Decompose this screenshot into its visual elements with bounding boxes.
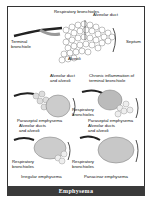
paraseptal-drawing <box>14 91 75 117</box>
label-terminal-bronchiole: Terminal bronchiole <box>11 40 41 49</box>
label-septum: Septum <box>126 40 141 45</box>
label-alveolar-duct-alveoli: Alveolar duct and alveoli <box>50 74 80 83</box>
label-irregular-emphysema: Irregular emphysema <box>21 175 62 180</box>
figure-caption: Emphysema <box>7 186 145 196</box>
label-respiratory-bronchioles-right: Respiratory bronchioles <box>72 160 102 169</box>
label-panacinar-emphysema: Panacinar emphysema <box>84 175 128 180</box>
label-respiratory-bronchioles-mid: Respiratory bronchioles <box>72 108 100 117</box>
label-alveolar-ducts-alveoli-right: Alveolar ducts and alveoli <box>88 124 118 133</box>
label-alveolar-duct: Alveolar duct <box>93 13 118 18</box>
label-alveolar-ducts-alveoli-left: Alveolar ducts and alveoli <box>19 124 49 133</box>
label-chronic-inflammation: Chronic inflammation of terminal bronchi… <box>89 74 145 83</box>
diagram-illustration <box>0 0 154 202</box>
label-alveoli: Alveoli <box>68 57 81 62</box>
label-respiratory-bronchioles-left: Respiratory bronchioles <box>12 160 42 169</box>
